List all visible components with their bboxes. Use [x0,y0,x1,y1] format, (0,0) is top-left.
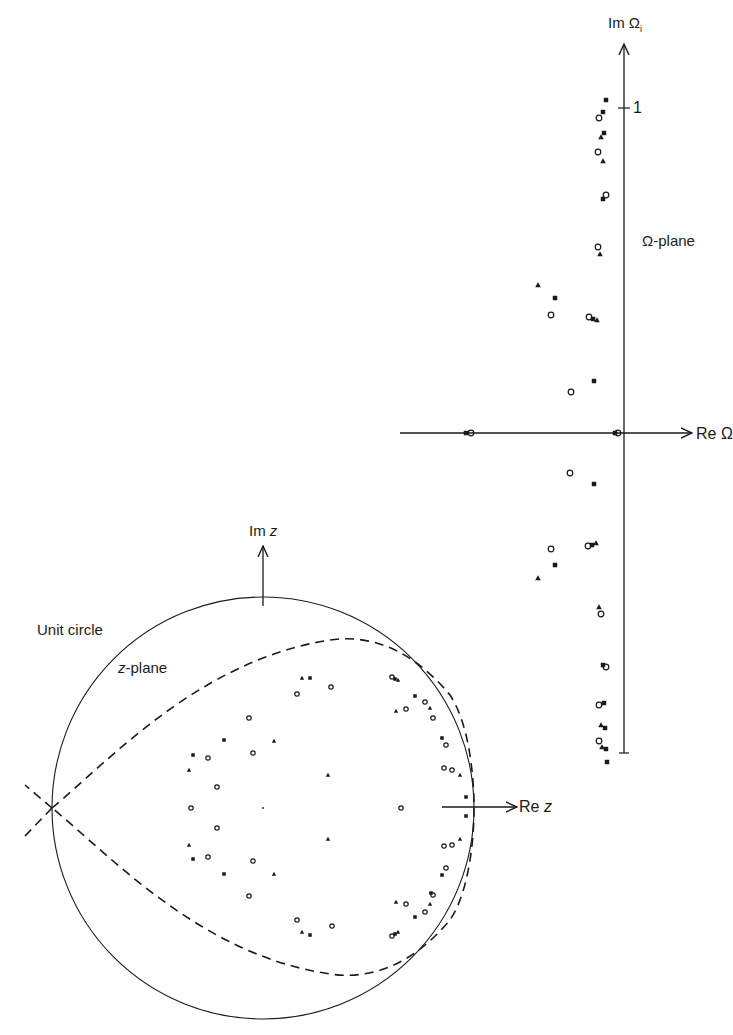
omega-im-axis-label: Im Ωi [608,15,642,34]
dashed-contour [52,639,474,975]
z-plane-suffix: -plane [126,659,168,676]
triangle-marker [598,722,604,727]
circle-marker [206,855,210,859]
triangle-marker [535,575,541,580]
square-marker [604,747,608,751]
z-im-var: z [270,522,278,539]
square-marker [429,891,433,895]
square-marker [592,379,596,383]
square-marker [308,933,312,937]
square-marker [464,431,468,435]
circle-marker [450,843,454,847]
z-plane-title: z-plane [118,660,167,675]
square-marker [191,857,195,861]
triangle-marker [593,540,599,545]
triangle-marker [428,706,432,710]
square-marker [601,110,605,114]
circle-marker [444,866,448,870]
circle-marker [596,702,602,708]
square-marker [553,563,557,567]
circle-marker [548,312,554,318]
square-marker [601,197,605,201]
figure: Im Ωi 1 Ω-plane Re Ω Im z Unit circle z-… [0,0,733,1035]
triangle-marker [458,837,462,841]
omega-re-prefix: Re [696,425,716,442]
circle-marker [251,751,255,755]
triangle-marker [428,902,432,906]
triangle-marker [300,930,304,934]
circle-marker [215,785,219,789]
square-marker [591,317,595,321]
circle-marker [596,738,602,744]
omega-plane-axes [400,44,692,753]
square-marker [604,98,608,102]
circle-marker [423,700,427,704]
square-marker [393,677,397,681]
circle-marker [189,806,193,810]
z-im-axis-label: Im z [249,523,277,538]
square-marker [464,814,468,818]
cusp-extension-lower [25,785,52,808]
z-re-prefix: Re [519,798,539,815]
plot-canvas [0,0,733,1035]
square-marker [222,872,226,876]
square-marker [464,795,468,799]
circle-marker [548,546,554,552]
z-plane-points [187,675,468,938]
z-re-axis-label: Re z [519,799,552,815]
circle-marker [206,756,210,760]
square-marker [553,296,557,300]
triangle-marker [458,773,462,777]
omega-plane-points [464,98,621,764]
triangle-marker [394,709,398,713]
triangle-marker [597,251,603,256]
triangle-marker [300,676,304,680]
omega-plane-title: Ω-plane [642,233,695,248]
z-re-var: z [544,798,552,815]
circle-marker [404,902,408,906]
z-im-prefix: Im [249,522,266,539]
circle-marker [247,716,251,720]
circle-marker [442,766,446,770]
square-marker [601,663,605,667]
square-marker [440,736,444,740]
square-marker [413,915,417,919]
square-marker [413,694,417,698]
z-plane-axes [25,546,517,1019]
square-marker [605,760,609,764]
circle-marker [329,685,333,689]
circle-marker [295,692,299,696]
triangle-marker [600,158,606,163]
square-marker [592,482,596,486]
omega-tick-label: 1 [633,100,642,116]
dot-marker [262,807,264,809]
triangle-marker [326,773,330,777]
omega-im-prefix: Im [608,14,625,31]
square-marker [393,932,397,936]
omega-re-symbol: Ω [721,425,733,442]
triangle-marker [187,843,191,847]
circle-marker [431,716,435,720]
square-marker [602,131,606,135]
circle-marker [596,115,602,121]
unit-circle-label: Unit circle [37,622,103,637]
triangle-marker [187,768,191,772]
cusp-extension-upper [25,808,52,836]
circle-marker [567,470,573,476]
circle-marker [247,894,251,898]
circle-marker [295,918,299,922]
omega-im-symbol: Ω [629,14,640,31]
circle-marker [595,149,601,155]
circle-marker [423,910,427,914]
triangle-marker [396,930,400,934]
circle-marker [251,859,255,863]
circle-marker [399,806,403,810]
triangle-marker [326,837,330,841]
triangle-marker [535,282,541,287]
z-plane-var: z [118,659,126,676]
square-marker [602,701,606,705]
circle-marker [568,389,574,395]
circle-marker [442,844,446,848]
square-marker [603,726,607,730]
circle-marker [598,611,604,617]
